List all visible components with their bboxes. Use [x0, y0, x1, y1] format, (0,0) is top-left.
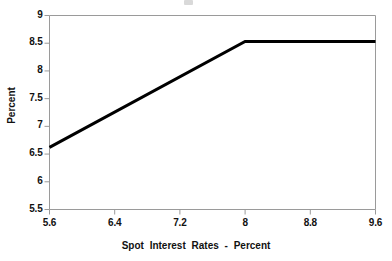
x-tick-label: 7.2 [160, 217, 200, 228]
chart-container: 5.566.577.588.59 5.66.47.288.89.6 Percen… [0, 0, 392, 261]
x-tick-marks [50, 210, 376, 215]
y-tick-label: 9 [9, 9, 43, 20]
x-axis-title: Spot Interest Rates - Percent [0, 240, 392, 251]
x-tick-label: 6.4 [95, 217, 135, 228]
y-tick-marks [45, 16, 50, 210]
y-tick-label: 5.5 [9, 203, 43, 214]
plot-frame [50, 16, 376, 210]
x-tick-label: 8 [225, 217, 265, 228]
data-series [50, 42, 376, 148]
y-tick-label: 6.5 [9, 147, 43, 158]
x-tick-label: 8.8 [290, 217, 330, 228]
y-tick-label: 8.5 [9, 36, 43, 47]
y-axis-title: Percent [6, 71, 17, 141]
series-line [50, 42, 376, 148]
y-tick-label: 6 [9, 175, 43, 186]
x-tick-label: 9.6 [356, 217, 392, 228]
x-tick-label: 5.6 [30, 217, 70, 228]
